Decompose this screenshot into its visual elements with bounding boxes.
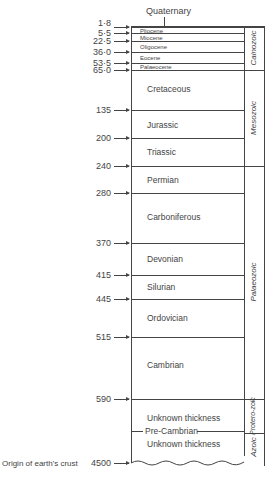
arrow-icon [114, 138, 129, 139]
arrow-icon [114, 27, 129, 28]
arrow-icon [114, 243, 129, 244]
boundary-590 [131, 399, 265, 400]
age-label: 590 [96, 395, 111, 404]
age-label: 240 [96, 162, 111, 171]
age-label: 4500 [91, 459, 111, 468]
period-carboniferous: Carboniferous [147, 213, 200, 222]
age-label: 36·0 [93, 48, 111, 57]
epoch-miocene: Miocene [140, 35, 163, 41]
boundary-200 [131, 138, 244, 139]
arrow-icon [114, 463, 129, 464]
arrow-icon [114, 41, 129, 42]
era-column-right-edge [264, 26, 265, 466]
age-axis: 1·8 5·5 22·5 36·0 53·5 65·0 135 200 240 … [0, 0, 131, 483]
boundary-280 [131, 193, 244, 194]
boundary-36 [131, 52, 244, 53]
age-label: 22·5 [93, 37, 111, 46]
age-label: 515 [96, 333, 111, 342]
period-ordovician: Ordovician [147, 314, 188, 323]
arrow-icon [114, 166, 129, 167]
arrow-icon [114, 110, 129, 111]
age-label: 65·0 [93, 66, 111, 75]
arrow-icon [114, 275, 129, 276]
arrow-icon [114, 70, 129, 71]
arrow-icon [114, 33, 129, 34]
quaternary-label: Quaternary [146, 6, 191, 16]
age-label: 445 [96, 295, 111, 304]
arrow-icon [114, 63, 129, 64]
boundary-445 [131, 299, 244, 300]
era-palaeozoic: Palaeozoic [249, 247, 259, 317]
quaternary-pointer [164, 17, 165, 26]
boundary-370 [131, 243, 244, 244]
boundary-135 [131, 110, 244, 111]
period-cambrian: Cambrian [147, 361, 184, 370]
precambrian-lower-thickness: Unknown thickness [147, 440, 220, 449]
age-label: 200 [96, 134, 111, 143]
epoch-palaeocene: Palaeocene [140, 64, 172, 70]
age-label: 1·8 [98, 19, 111, 28]
epoch-oligocene: Oligocene [140, 44, 167, 50]
precambrian-divider-label: Pre-Cambrian [145, 427, 198, 436]
arrow-icon [114, 193, 129, 194]
era-cainozoic: Cainozoic [249, 18, 259, 78]
precambrian-upper-thickness: Unknown thickness [147, 414, 220, 423]
precambrian-divider-right [197, 431, 244, 432]
boundary-240 [131, 166, 265, 167]
epoch-eocene: Eocene [140, 55, 160, 61]
period-jurassic: Jurassic [147, 121, 178, 130]
precambrian-divider-left [131, 431, 143, 432]
boundary-415 [131, 275, 244, 276]
boundary-22-5 [131, 41, 244, 42]
arrow-icon [114, 337, 129, 338]
period-silurian: Silurian [147, 283, 175, 292]
age-label: 415 [96, 271, 111, 280]
origin-label: Origin of earth's crust [2, 459, 78, 468]
wavy-bottom-edge [131, 458, 245, 468]
arrow-icon [114, 52, 129, 53]
age-label: 135 [96, 106, 111, 115]
age-label: 280 [96, 189, 111, 198]
era-mesozoic: Mesozoic [249, 88, 259, 148]
age-label: 370 [96, 239, 111, 248]
arrow-icon [114, 399, 129, 400]
period-permian: Permian [147, 176, 179, 185]
epoch-pliocene: Pliocene [140, 28, 163, 34]
boundary-515 [131, 337, 244, 338]
period-cretaceous: Cretaceous [147, 85, 190, 94]
boundary-65 [131, 70, 265, 71]
column-right-edge [244, 26, 245, 456]
era-azoic: Azoic [249, 427, 259, 467]
arrow-icon [114, 299, 129, 300]
column-left-edge [131, 26, 132, 463]
period-devonian: Devonian [147, 255, 183, 264]
period-triassic: Triassic [147, 148, 176, 157]
